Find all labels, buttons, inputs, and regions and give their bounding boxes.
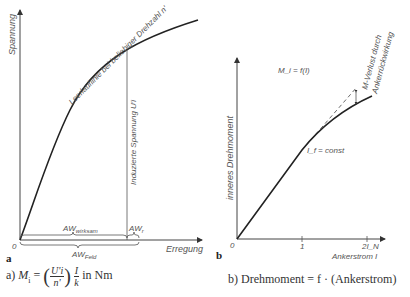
caption-a: a) Mi = (U'in') Ik in Nm <box>6 265 113 288</box>
caption-a-frac1: U'in' <box>50 265 64 288</box>
brace-field <box>20 242 139 248</box>
brace-effective-label: AWwirksam <box>62 224 98 234</box>
no-load-curve-label: Leerlauflinie bei beliebiger Drehzahl n' <box>67 4 169 106</box>
brace-field-label: AWFeld <box>71 250 97 260</box>
x-axis-label-b: Ankerstrom I <box>331 252 378 261</box>
caption-a-lhs-sub: i <box>28 276 30 285</box>
y-axis-label-b: inneres Drehmoment <box>225 115 235 200</box>
torque-curve <box>237 96 372 239</box>
induced-voltage-label: Induzierte Spannung U'i <box>129 100 138 185</box>
panel-letter-b: b <box>216 249 222 261</box>
x-tick-label-2: 2I_N <box>361 242 379 251</box>
figure-b: inneres Drehmoment Ankerstrom I 0 1 2I_N… <box>216 30 396 261</box>
diagram-canvas: Spannung Erregung 0 Leerlauflinie bei be… <box>0 0 410 297</box>
panel-letter-a: a <box>6 252 12 264</box>
caption-a-unit: in Nm <box>82 268 112 282</box>
origin-label-b: 0 <box>230 241 235 250</box>
brace-armature-label: AWr <box>128 224 145 234</box>
caption-a-frac2: Ik <box>74 265 79 288</box>
figure-a: Spannung Erregung 0 Leerlauflinie bei be… <box>6 4 203 264</box>
origin-label-a: 0 <box>12 242 17 251</box>
y-axis-label-a: Spannung <box>7 14 17 55</box>
curve-condition-label: I_f = const <box>307 146 345 155</box>
caption-a-prefix: a) <box>6 268 15 282</box>
function-label: M_i = f(I) <box>278 66 310 75</box>
caption-b: b) Drehmoment = f · (Ankerstrom) <box>228 272 396 287</box>
caption-a-lhs: M <box>18 268 28 282</box>
caption-a-eq: = <box>34 268 41 282</box>
x-tick-label-1: 1 <box>300 242 304 251</box>
x-axis-label-a: Erregung <box>166 244 203 254</box>
no-load-curve <box>20 20 198 240</box>
